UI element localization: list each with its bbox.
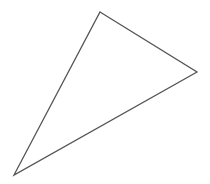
shape-svg-surface: [0, 0, 210, 184]
canvas-background: [0, 0, 210, 184]
triangle-drawing-canvas: [0, 0, 210, 184]
